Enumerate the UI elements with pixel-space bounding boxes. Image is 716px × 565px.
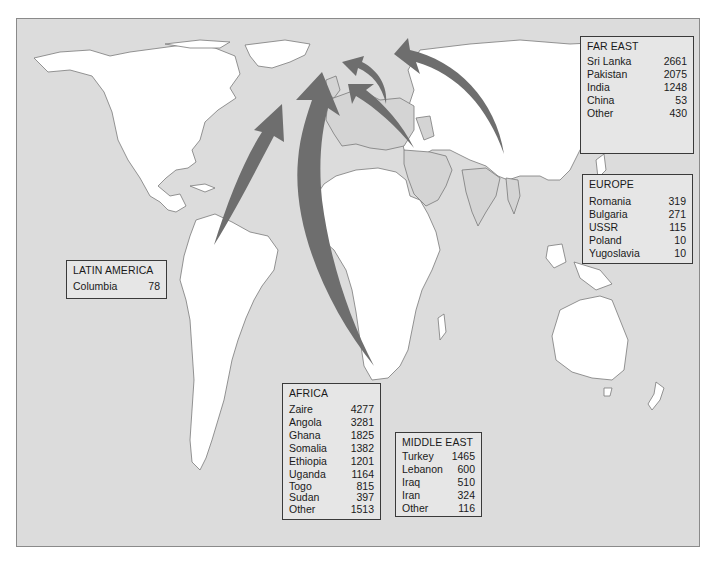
legend-title: LATIN AMERICA [73, 264, 160, 276]
legend-row: Poland10 [589, 234, 686, 247]
country-label: Other [289, 503, 315, 515]
legend-row: Pakistan2075 [587, 68, 687, 81]
count-value: 324 [457, 489, 475, 502]
count-value: 2661 [664, 55, 687, 68]
count-value: 1201 [351, 455, 374, 468]
country-label: Bulgaria [589, 208, 628, 221]
legend-row: Romania319 [589, 195, 686, 208]
country-label: Lebanon [402, 463, 443, 476]
country-label: China [587, 94, 614, 107]
legend-row: Bulgaria271 [589, 208, 686, 221]
legend-europe: EUROPE Romania319 Bulgaria271 USSR115 Po… [582, 174, 693, 264]
legend-row: Iraq510 [402, 476, 475, 489]
count-value: 1248 [664, 81, 687, 94]
greenland-landmass [245, 40, 310, 68]
country-label: Ghana [289, 429, 321, 442]
arrow-latin-america [214, 104, 284, 245]
count-value: 10 [674, 234, 686, 247]
legend-latin-america: LATIN AMERICA Columbia78 [66, 260, 167, 299]
country-label: Yugoslavia [589, 247, 640, 260]
legend-row: Yugoslavia10 [589, 247, 686, 260]
country-label: Ethiopia [289, 455, 327, 468]
count-value: 600 [457, 463, 475, 476]
legend-row: Ghana1825 [289, 429, 374, 442]
count-value: 1825 [351, 429, 374, 442]
count-value: 271 [668, 208, 686, 221]
country-label: Iraq [402, 476, 420, 489]
country-label: Other [402, 502, 428, 515]
count-value: 116 [458, 502, 475, 515]
legend-row: Zaire4277 [289, 403, 374, 416]
legend-far-east: FAR EAST Sri Lanka2661 Pakistan2075 Indi… [580, 36, 694, 154]
count-value: 10 [674, 247, 686, 260]
count-value: 115 [669, 221, 686, 234]
legend-row: Other430 [587, 107, 687, 120]
count-value: 1382 [351, 442, 374, 455]
legend-title: AFRICA [289, 387, 374, 399]
country-label: Poland [589, 234, 622, 247]
legend-row: Ethiopia1201 [289, 455, 374, 468]
legend-row: Angola3281 [289, 416, 374, 429]
legend-row: Somalia1382 [289, 442, 374, 455]
count-value: 4277 [351, 403, 374, 416]
legend-row: Columbia78 [73, 280, 160, 293]
country-label: Zaire [289, 403, 313, 416]
count-value: 430 [669, 107, 687, 120]
country-label: Romania [589, 195, 631, 208]
count-value: 510 [457, 476, 475, 489]
legend-row: Sri Lanka2661 [587, 55, 687, 68]
count-value: 3281 [351, 416, 374, 429]
country-label: Turkey [402, 450, 434, 463]
legend-row: Other116 [402, 502, 475, 515]
legend-row: Other1513 [289, 503, 374, 515]
india-landmass [462, 168, 500, 226]
legend-title: EUROPE [589, 178, 686, 190]
country-label: USSR [589, 221, 618, 234]
count-value: 319 [668, 195, 686, 208]
country-label: Other [587, 107, 613, 120]
country-label: Iran [402, 489, 420, 502]
legend-row: Sudan397 [289, 492, 374, 503]
indochina-landmass [506, 178, 520, 214]
legend-row: Turkey1465 [402, 450, 475, 463]
count-value: 1465 [452, 450, 475, 463]
count-value: 1513 [351, 503, 374, 515]
country-label: India [587, 81, 610, 94]
count-value: 78 [148, 280, 160, 293]
country-label: Angola [289, 416, 322, 429]
australia-landmass [552, 296, 628, 380]
legend-title: MIDDLE EAST [402, 436, 475, 448]
legend-row: Iran324 [402, 489, 475, 502]
country-label: Somalia [289, 442, 327, 455]
legend-row: USSR115 [589, 221, 686, 234]
count-value: 2075 [664, 68, 687, 81]
legend-row: India1248 [587, 81, 687, 94]
count-value: 397 [356, 492, 374, 503]
country-label: Sudan [289, 492, 319, 503]
legend-title: FAR EAST [587, 40, 687, 52]
legend-row: Lebanon600 [402, 463, 475, 476]
legend-row: China53 [587, 94, 687, 107]
country-label: Sri Lanka [587, 55, 631, 68]
south-america-landmass [180, 214, 278, 470]
country-label: Pakistan [587, 68, 627, 81]
country-label: Columbia [73, 280, 117, 293]
legend-middle-east: MIDDLE EAST Turkey1465 Lebanon600 Iraq51… [395, 432, 482, 517]
legend-africa: AFRICA Zaire4277 Angola3281 Ghana1825 So… [282, 383, 381, 520]
count-value: 53 [675, 94, 687, 107]
